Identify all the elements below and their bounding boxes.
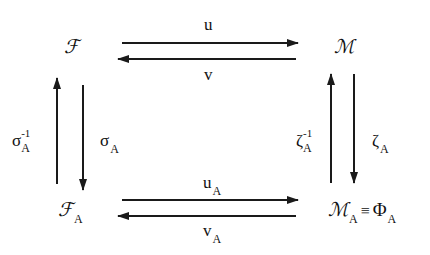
label-zeta-inverse-subscript: A [303, 142, 312, 154]
label-v-a: vA [203, 222, 221, 239]
label-zeta-inverse-text: ζ [296, 131, 303, 150]
label-zeta-inverse-superscript: -1 [303, 128, 312, 139]
node-F: ℱ [64, 37, 79, 56]
label-u-text: u [204, 15, 213, 34]
node-Phi-subscript: A [388, 212, 397, 226]
commutative-diagram: ℱ ℳ ℱA ℳA≡ΦA u v uA vA σ-1A σA ζ-1A ζA [0, 0, 430, 255]
label-u-a: uA [203, 174, 221, 191]
node-M-symbol: ℳ [334, 35, 354, 57]
label-sigma-inverse-scripts: -1A [21, 130, 33, 154]
label-u: u [204, 16, 213, 33]
node-M-A-symbol: ℳ [328, 198, 348, 220]
label-sigma-inverse-subscript: A [21, 142, 30, 154]
node-F-A-symbol: ℱ [58, 198, 73, 220]
label-zeta: ζA [372, 132, 389, 149]
label-v: v [204, 66, 213, 83]
label-sigma-inverse-superscript: -1 [21, 128, 30, 139]
label-zeta-subscript: A [380, 142, 389, 156]
node-F-symbol: ℱ [64, 35, 79, 57]
label-sigma-inverse-text: σ [12, 131, 21, 150]
label-v-text: v [204, 65, 213, 84]
label-sigma-subscript: A [110, 142, 119, 156]
label-u-a-subscript: A [213, 184, 222, 198]
node-M-A-subscript: A [349, 212, 358, 226]
node-F-A-subscript: A [74, 212, 83, 226]
node-M-A: ℳA≡ΦA [328, 200, 396, 219]
label-zeta-inverse: ζ-1A [296, 130, 315, 154]
node-F-A: ℱA [58, 200, 83, 219]
label-sigma: σA [100, 132, 119, 149]
label-v-a-subscript: A [213, 232, 222, 246]
node-Phi-symbol: Φ [373, 199, 387, 220]
label-zeta-text: ζ [372, 131, 379, 150]
label-u-a-text: u [203, 173, 212, 192]
label-zeta-inverse-scripts: -1A [303, 130, 315, 154]
equivalence-symbol: ≡ [361, 202, 370, 219]
node-M: ℳ [334, 37, 354, 56]
label-v-a-text: v [203, 221, 212, 240]
label-sigma-text: σ [100, 131, 109, 150]
label-sigma-inverse: σ-1A [12, 130, 33, 154]
